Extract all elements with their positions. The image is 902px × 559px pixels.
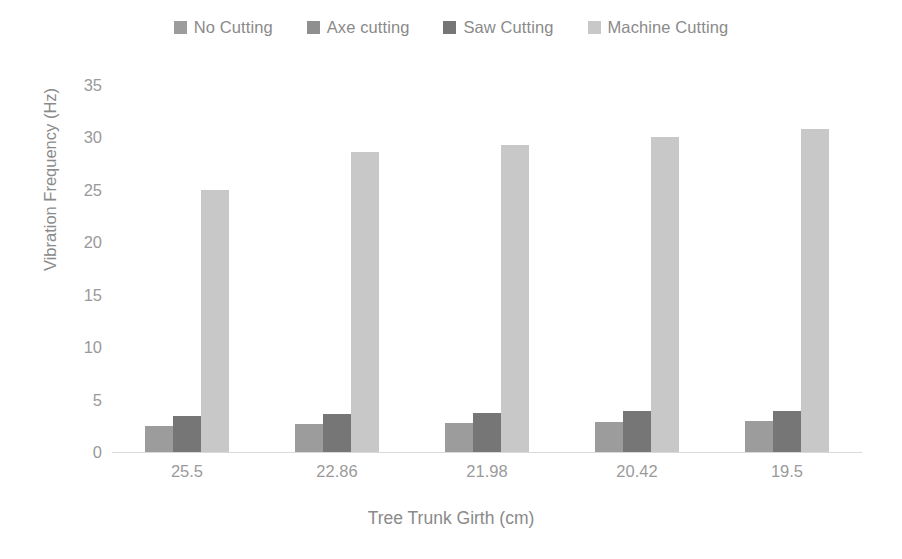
y-tick-label: 35	[56, 76, 102, 95]
bar[interactable]	[801, 129, 829, 452]
bar[interactable]	[651, 137, 679, 452]
plot-area	[112, 85, 862, 452]
bar[interactable]	[295, 424, 323, 452]
x-axis-tick-labels: 25.522.8621.9820.4219.5	[112, 462, 862, 481]
bar-group	[562, 85, 712, 452]
bar[interactable]	[473, 413, 501, 452]
bar-group-bars	[445, 85, 529, 452]
y-tick-label: 30	[56, 128, 102, 147]
bar-chart: No Cutting Axe cutting Saw Cutting Machi…	[0, 0, 902, 559]
bar[interactable]	[745, 421, 773, 452]
bar[interactable]	[623, 411, 651, 452]
y-tick-label: 5	[56, 390, 102, 409]
bar[interactable]	[201, 190, 229, 452]
bar[interactable]	[351, 152, 379, 452]
y-axis-tick-labels: 35302520151050	[56, 75, 102, 463]
bar[interactable]	[173, 416, 201, 452]
bar[interactable]	[323, 414, 351, 452]
bar-group-bars	[595, 85, 679, 452]
bar[interactable]	[501, 145, 529, 452]
x-tick-label: 25.5	[112, 462, 262, 481]
bar-group-bars	[295, 85, 379, 452]
plot-wrapper: Vibration Frequency (Hz) 35302520151050 …	[0, 0, 902, 559]
bar-group	[712, 85, 862, 452]
x-axis-title: Tree Trunk Girth (cm)	[0, 508, 902, 529]
y-tick-label: 10	[56, 338, 102, 357]
bar[interactable]	[595, 422, 623, 452]
x-tick-label: 20.42	[562, 462, 712, 481]
bar-group	[412, 85, 562, 452]
x-tick-label: 19.5	[712, 462, 862, 481]
x-tick-label: 22.86	[262, 462, 412, 481]
bar-groups	[112, 85, 862, 452]
bar[interactable]	[445, 423, 473, 452]
y-tick-label: 25	[56, 180, 102, 199]
bar[interactable]	[773, 411, 801, 452]
bar-group-bars	[745, 85, 829, 452]
y-tick-label: 0	[56, 443, 102, 462]
y-tick-label: 15	[56, 285, 102, 304]
bar-group	[262, 85, 412, 452]
bar[interactable]	[145, 426, 173, 452]
bar-group-bars	[145, 85, 229, 452]
bar-group	[112, 85, 262, 452]
x-axis-line	[112, 452, 862, 453]
y-tick-label: 20	[56, 233, 102, 252]
x-tick-label: 21.98	[412, 462, 562, 481]
